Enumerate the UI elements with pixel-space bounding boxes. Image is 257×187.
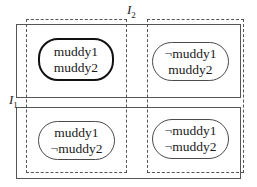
state-node-muddy1-muddy2: muddy1 muddy2 (38, 38, 114, 81)
state-proposition-line: muddy2 (54, 60, 98, 76)
state-proposition-line: muddy2 (168, 62, 212, 78)
state-node-muddy1-notmuddy2: muddy1 ¬muddy2 (38, 121, 115, 160)
state-node-notmuddy1-muddy2: ¬muddy1 muddy2 (152, 42, 229, 81)
information-set-label-i2: I2 (127, 2, 136, 20)
information-set-label-i2-subscript: 2 (131, 10, 136, 20)
state-node-notmuddy1-notmuddy2: ¬muddy1 ¬muddy2 (152, 119, 229, 159)
state-proposition-line: muddy1 (54, 44, 98, 60)
information-set-label-i1-subscript: 1 (13, 100, 18, 110)
state-proposition-line: ¬muddy1 (165, 46, 217, 62)
state-proposition-line: ¬muddy2 (165, 139, 217, 155)
state-proposition-line: muddy1 (54, 125, 98, 141)
state-proposition-line: ¬muddy1 (165, 123, 217, 139)
information-set-label-i1: I1 (9, 92, 18, 110)
information-partition-diagram: muddy1 muddy2 ¬muddy1 muddy2 muddy1 ¬mud… (0, 0, 257, 187)
state-proposition-line: ¬muddy2 (51, 141, 103, 157)
